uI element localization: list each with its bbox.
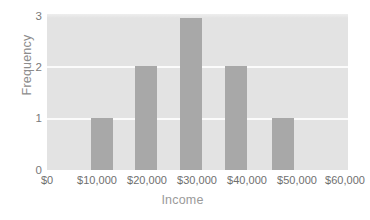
- x-axis-tick-labels: $0 $10,000 $20,000 $30,000 $40,000 $50,0…: [0, 174, 365, 190]
- plot-area: [47, 14, 348, 170]
- bar-bin-4: [225, 66, 247, 170]
- bar-bin-2: [135, 66, 157, 170]
- bar-bin-3: [180, 15, 202, 170]
- x-axis-title: Income: [0, 193, 365, 207]
- bar-bin-1: [91, 118, 113, 170]
- y-tick-label-1: 1: [26, 113, 42, 125]
- y-tick-label-3: 3: [26, 11, 42, 23]
- x-tick-label-6: $60,000: [315, 174, 370, 186]
- bar-bin-5: [272, 118, 294, 170]
- y-tick-label-2: 2: [26, 62, 42, 74]
